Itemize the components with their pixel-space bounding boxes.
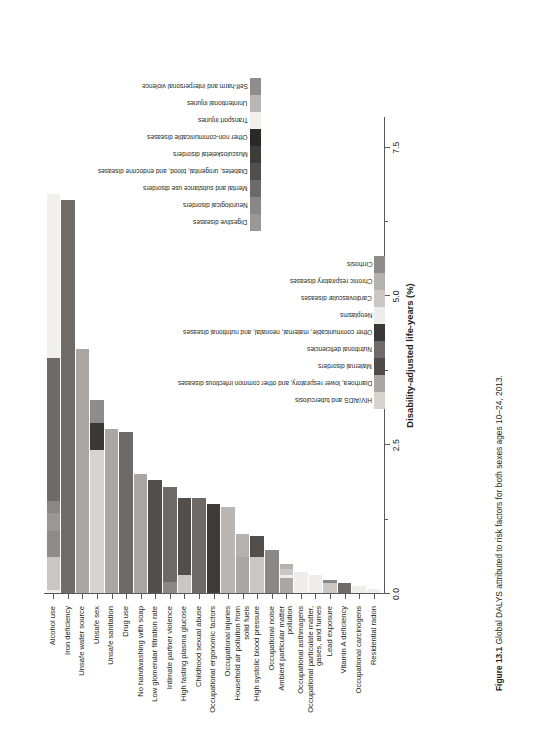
bar-segment	[250, 557, 264, 593]
bar-segment	[47, 194, 61, 358]
legend-column-2: Digestive diseasesNeurological disorders…	[98, 78, 261, 231]
bar-occupational-injuries	[221, 507, 235, 593]
category-label: No handwashing with soap	[137, 601, 145, 731]
category-label: Alcohol use	[49, 601, 57, 731]
bar-segment	[148, 480, 162, 593]
bar-vitamin-a-deficiency	[338, 583, 352, 593]
value-tick-label: 0.0	[391, 588, 401, 600]
value-tick	[385, 444, 390, 445]
figure-number: Figure 13.1	[494, 647, 504, 691]
legend-label: Digestive diseases	[193, 219, 247, 226]
bar-segment	[236, 557, 250, 593]
legend-label: Self-harm and interpersonal violence	[142, 83, 248, 90]
legend-column-1: HIV/AIDS and tuberculosisDiarrhoea, lowe…	[178, 256, 385, 409]
legend-item: Unintentional injuries	[187, 95, 260, 112]
category-tick	[228, 594, 229, 599]
bar-ambient-particular-matter-pollution	[280, 564, 294, 593]
value-tick-label: 2.5	[391, 439, 401, 451]
legend-item: Musculoskeletal disorders	[173, 146, 261, 163]
legend-item: Cardiovascular diseases	[301, 290, 385, 307]
category-tick	[214, 594, 215, 599]
category-label: Occupational carcinogens	[355, 601, 363, 731]
legend-label: Chronic respiratory diseases	[290, 278, 372, 285]
bar-segment	[90, 450, 104, 593]
legend-label: Neurological disorders	[183, 202, 248, 209]
legend-swatch	[250, 214, 261, 231]
value-tick	[385, 147, 390, 148]
category-tick	[112, 594, 113, 599]
legend-item: Digestive diseases	[193, 214, 260, 231]
category-label: Low glomerular filtration rate	[151, 601, 159, 731]
category-tick	[315, 594, 316, 599]
legend-swatch	[374, 256, 385, 273]
bar-segment	[178, 575, 192, 593]
bar-occupational-noise	[265, 550, 279, 593]
category-label: Drug use	[122, 601, 130, 731]
legend-swatch	[250, 163, 261, 180]
value-tick-minor	[385, 370, 388, 371]
bar-unsafe-sex	[90, 400, 104, 593]
bar-segment	[90, 423, 104, 450]
bar-segment	[90, 400, 104, 424]
legend-item: Maternal disorders	[318, 358, 385, 375]
category-tick	[330, 594, 331, 599]
legend-label: Diabetes, urogenital, blood, and endocri…	[98, 168, 248, 175]
legend-swatch	[250, 78, 261, 95]
category-label: Intimate partner violence	[166, 601, 174, 731]
bar-intimate-partner-violence	[163, 487, 177, 593]
category-tick	[155, 594, 156, 599]
bar-segment	[367, 589, 381, 593]
legend-item: Nutritional deficiencies	[307, 341, 385, 358]
category-tick	[141, 594, 142, 599]
category-label: Iron deficiency	[64, 601, 72, 731]
category-label: Occupational particulate matter,gases, a…	[307, 601, 323, 731]
bar-alcohol-use	[47, 194, 61, 593]
category-label: High systolic blood pressure	[253, 601, 261, 731]
category-label: Occupational injuries	[224, 601, 232, 731]
legend-label: Cirrhosis	[347, 261, 373, 268]
category-tick	[97, 594, 98, 599]
category-tick	[301, 594, 302, 599]
category-label: Ambient particular matterpollution	[278, 601, 294, 731]
legend-label: Cardiovascular diseases	[301, 295, 372, 302]
bar-high-systolic-blood-pressure	[250, 537, 264, 594]
legend-swatch	[250, 95, 261, 112]
category-tick	[257, 594, 258, 599]
legend-label: Other non-communicable diseases	[147, 134, 247, 141]
legend-label: Nutritional deficiencies	[307, 346, 372, 353]
bar-segment	[163, 582, 177, 593]
bar-segment	[119, 432, 133, 593]
category-tick	[199, 594, 200, 599]
bar-high-fasting-plasma-glucose	[178, 498, 192, 593]
bar-segment	[47, 531, 61, 558]
legend-swatch	[250, 112, 261, 129]
value-tick-label: 7.5	[391, 142, 401, 154]
legend-label: Musculoskeletal disorders	[173, 151, 248, 158]
legend-item: Mental and substance use disorders	[143, 180, 260, 197]
bar-segment	[47, 513, 61, 531]
value-tick-minor	[385, 519, 388, 520]
legend-label: Diarrhoea, lower respiratory, and other …	[178, 380, 372, 387]
bar-segment	[338, 583, 352, 593]
category-label: Unsafe sex	[93, 601, 101, 731]
bar-segment	[47, 557, 61, 590]
legend-item: Transport injuries	[198, 112, 261, 129]
bar-occupational-ergonomic-factors	[207, 504, 221, 593]
bar-occupational-asthmagens	[294, 572, 308, 593]
legend-label: Other communicable, maternal, neonatal, …	[183, 329, 372, 336]
bar-segment	[280, 564, 294, 569]
bar-segment	[280, 575, 294, 577]
value-tick	[385, 593, 390, 594]
bar-segment	[105, 429, 119, 593]
category-tick	[374, 594, 375, 599]
legend-label: Mental and substance use disorders	[143, 185, 247, 192]
legend-label: Maternal disorders	[318, 363, 372, 370]
bar-segment	[76, 349, 90, 593]
bar-residential-radon	[367, 589, 381, 593]
legend-item: Cirrhosis	[347, 256, 386, 273]
legend-swatch	[374, 324, 385, 341]
bar-low-glomerular-filtration-rate	[148, 480, 162, 593]
bar-segment	[352, 586, 366, 593]
category-tick	[53, 594, 54, 599]
bar-segment	[47, 590, 61, 593]
